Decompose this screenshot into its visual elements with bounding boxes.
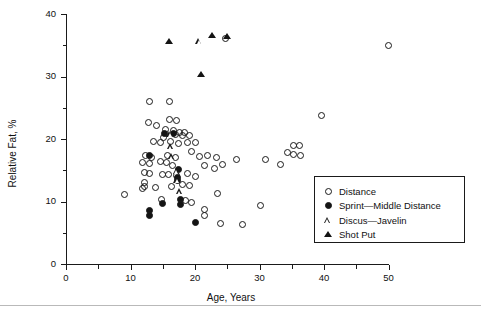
legend-label: Distance	[339, 186, 376, 197]
legend-entry: Sprint—Middle Distance	[323, 199, 441, 213]
data-point	[173, 117, 180, 124]
legend-marker-icon	[323, 215, 333, 225]
data-point	[196, 153, 203, 160]
legend-box: DistanceSprint—Middle DistanceDiscus—Jav…	[314, 176, 465, 243]
data-point	[174, 177, 180, 183]
data-point	[179, 181, 186, 188]
data-point	[141, 169, 148, 176]
data-point	[181, 129, 188, 136]
y-tick-label: 40	[24, 8, 56, 19]
y-tick-label: 20	[24, 133, 56, 144]
data-point	[157, 139, 164, 146]
x-tick-minor	[98, 265, 99, 269]
data-point	[176, 129, 183, 136]
data-point	[192, 173, 199, 180]
data-point	[146, 98, 153, 105]
y-tick-major	[61, 77, 66, 78]
page-divider-rule	[0, 305, 481, 306]
data-point	[179, 132, 186, 139]
data-point	[177, 196, 184, 203]
data-point	[167, 138, 174, 145]
data-point	[284, 149, 291, 156]
data-point	[145, 119, 152, 126]
marker-glyph	[324, 231, 332, 237]
y-tick-major	[61, 14, 66, 15]
data-point	[150, 138, 157, 145]
y-tick-label: 10	[24, 195, 56, 206]
data-point	[208, 32, 216, 38]
data-point	[139, 185, 146, 192]
y-tick-minor	[63, 233, 67, 234]
y-axis-line	[66, 14, 67, 265]
data-point	[177, 188, 183, 194]
data-point	[141, 183, 148, 190]
data-point	[239, 221, 246, 228]
legend-entry: Discus—Javelin	[323, 213, 407, 227]
data-point	[277, 161, 284, 168]
legend-entry: Shot Put	[323, 228, 375, 242]
data-point	[170, 127, 177, 134]
data-point	[141, 179, 148, 186]
data-point	[146, 207, 153, 214]
x-tick-major	[131, 265, 132, 270]
data-point	[196, 38, 202, 44]
data-point	[168, 153, 174, 159]
data-point	[290, 151, 297, 158]
data-point	[148, 154, 155, 161]
x-axis-title: Age, Years	[186, 292, 276, 303]
y-axis-title-wrapper: Relative Fat, %	[4, 100, 18, 210]
y-tick-minor	[63, 45, 67, 46]
data-point	[257, 202, 264, 209]
data-point	[139, 159, 146, 166]
y-tick-minor	[63, 170, 67, 171]
x-tick-major	[324, 265, 325, 270]
data-point	[204, 152, 211, 159]
data-point	[184, 170, 191, 177]
data-point	[290, 142, 297, 149]
data-point	[167, 131, 173, 137]
data-point	[146, 152, 153, 159]
x-tick-minor	[356, 265, 357, 269]
y-tick-label: 0	[24, 258, 56, 269]
data-point	[177, 201, 184, 208]
y-tick-major	[61, 139, 66, 140]
x-tick-label: 50	[374, 272, 404, 283]
data-point	[192, 219, 199, 226]
data-point	[159, 200, 166, 207]
data-point	[385, 42, 392, 49]
x-tick-major	[195, 265, 196, 270]
data-point	[188, 148, 195, 155]
y-tick-minor	[63, 108, 67, 109]
x-tick-minor	[292, 265, 293, 269]
x-tick-label: 30	[245, 272, 275, 283]
x-tick-major	[389, 265, 390, 270]
data-point	[172, 131, 179, 138]
data-point	[222, 35, 229, 42]
data-point	[201, 162, 208, 169]
data-point	[201, 212, 208, 219]
data-point	[233, 156, 240, 163]
legend-marker-icon	[323, 230, 333, 240]
data-point	[160, 134, 167, 141]
data-point	[166, 116, 173, 123]
data-point	[162, 126, 169, 133]
data-point	[168, 143, 174, 149]
x-tick-minor	[227, 265, 228, 269]
data-point	[142, 152, 149, 159]
data-point	[157, 158, 164, 165]
data-point	[170, 130, 177, 137]
data-point	[146, 160, 153, 167]
data-point	[174, 174, 181, 181]
data-point	[146, 212, 153, 219]
data-point	[146, 170, 153, 177]
y-tick-label: 30	[24, 70, 56, 81]
data-point	[211, 165, 218, 172]
data-point	[159, 171, 166, 178]
data-point	[164, 152, 171, 159]
data-point	[172, 154, 179, 161]
data-point	[184, 139, 191, 146]
scatter-plot-figure: 010203040 01020304050 Relative Fat, % Ag…	[0, 0, 481, 324]
data-point	[188, 199, 195, 206]
x-tick-minor	[163, 265, 164, 269]
x-tick-label: 20	[180, 272, 210, 283]
